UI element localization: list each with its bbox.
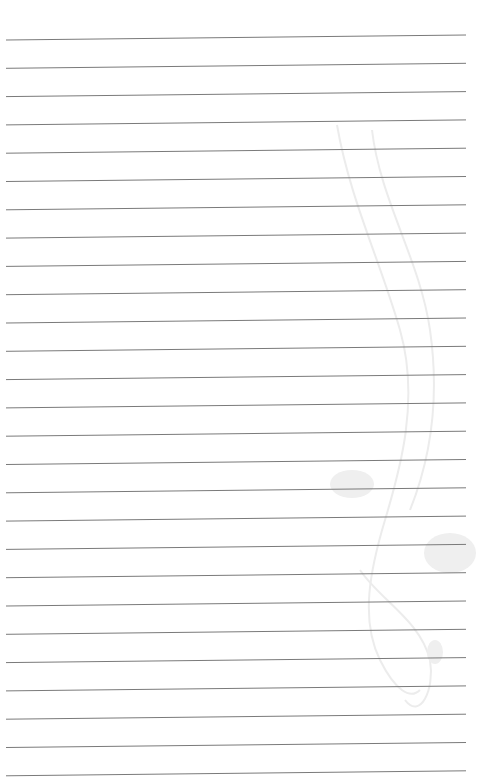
ruled-line [6,629,466,634]
ruled-line [6,35,466,40]
ruled-line [6,686,466,691]
ruled-line [6,601,466,606]
ruled-line [6,92,466,97]
ruled-line [6,714,466,719]
ruled-line [6,771,466,776]
lined-paper-page [0,0,484,777]
ruled-line [6,431,466,436]
ruled-line [6,516,466,521]
ruled-line [6,318,466,323]
ruled-line [6,233,466,238]
ruled-line [6,460,466,465]
ruled-line [6,658,466,663]
ruled-line [6,148,466,153]
ruled-line [6,573,466,578]
ruled-line [6,375,466,380]
ruled-line [6,205,466,210]
ruled-line [6,63,466,68]
ruled-line [6,403,466,408]
ruled-line [6,488,466,493]
ruled-line [6,743,466,748]
ruled-line [6,261,466,266]
ruled-lines [0,0,484,777]
ruled-line [6,290,466,295]
ruled-line [6,346,466,351]
ruled-line [6,544,466,549]
ruled-line [6,120,466,125]
ruled-line [6,177,466,182]
